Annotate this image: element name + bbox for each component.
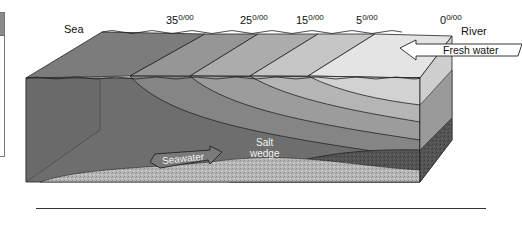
salinity-label-5: 50/00 bbox=[356, 14, 378, 26]
estuary-block-diagram bbox=[0, 0, 522, 238]
salinity-unit: 0/00 bbox=[362, 13, 378, 22]
sea-label: Sea bbox=[64, 24, 84, 35]
salinity-label-25: 250/00 bbox=[240, 14, 268, 26]
salinity-label-0: 00/00 bbox=[440, 14, 462, 26]
salinity-label-35: 350/00 bbox=[166, 14, 194, 26]
salinity-unit: 0/00 bbox=[308, 13, 324, 22]
salinity-value: 25 bbox=[240, 14, 252, 26]
salt-wedge-line2: wedge bbox=[250, 149, 279, 160]
salinity-value: 35 bbox=[166, 14, 178, 26]
river-label: River bbox=[461, 26, 487, 37]
bottom-divider bbox=[36, 208, 486, 209]
salinity-value: 15 bbox=[296, 14, 308, 26]
salt-wedge-line1: Salt bbox=[250, 138, 279, 149]
fresh-water-label: Fresh water bbox=[443, 45, 498, 56]
salinity-unit: 0/00 bbox=[178, 13, 194, 22]
salinity-unit: 0/00 bbox=[446, 13, 462, 22]
salt-wedge-label: Salt wedge bbox=[250, 138, 279, 159]
salinity-unit: 0/00 bbox=[252, 13, 268, 22]
salinity-label-15: 150/00 bbox=[296, 14, 324, 26]
